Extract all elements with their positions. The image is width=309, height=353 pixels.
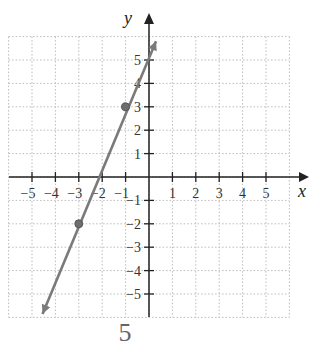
figure-caption: 5: [0, 318, 250, 348]
x-tick-label: 2: [192, 186, 199, 201]
x-tick-label: −4: [44, 186, 59, 201]
y-tick-label: −5: [126, 287, 141, 302]
y-tick-label: 3: [134, 100, 141, 115]
y-tick-label: −4: [126, 264, 141, 279]
y-axis-label: y: [122, 8, 132, 28]
y-tick-label: 1: [134, 147, 141, 162]
data-point: [75, 220, 83, 228]
x-tick-label: 4: [239, 186, 246, 201]
y-tick-label: 2: [134, 123, 141, 138]
y-tick-label: 5: [134, 53, 141, 68]
y-tick-label: −2: [126, 217, 141, 232]
x-axis: [9, 172, 309, 182]
data-point: [122, 103, 130, 111]
y-tick-label: −1: [126, 193, 141, 208]
x-axis-label: x: [297, 181, 306, 201]
x-tick-label: −5: [21, 186, 36, 201]
x-tick-label: 3: [216, 186, 223, 201]
x-tick-label: −3: [67, 186, 82, 201]
x-tick-label: 1: [169, 186, 176, 201]
y-tick-label: −3: [126, 240, 141, 255]
y-axis-arrow-icon: [144, 13, 154, 24]
coordinate-plane: −5−4−3−2−112345−5−4−3−2−112345 x y: [0, 0, 309, 353]
x-tick-label: 5: [263, 186, 270, 201]
